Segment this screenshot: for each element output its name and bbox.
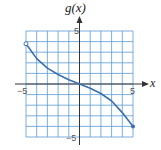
open-endpoint	[24, 42, 28, 46]
x-tick-max: 5	[130, 86, 135, 96]
graph-canvas	[0, 0, 161, 150]
x-axis-label: x	[150, 76, 155, 91]
axes	[15, 16, 149, 145]
chart-title: g(x)	[65, 0, 86, 16]
x-tick-min: −5	[17, 86, 27, 96]
y-tick-max: 5	[74, 26, 79, 36]
closed-endpoint	[131, 124, 135, 128]
y-tick-min: −5	[66, 133, 76, 143]
